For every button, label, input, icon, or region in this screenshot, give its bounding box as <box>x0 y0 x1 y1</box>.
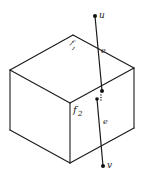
vertex-v <box>101 164 105 168</box>
vertex-u <box>93 14 97 18</box>
cube-edge-top-left <box>10 35 73 70</box>
cube <box>10 35 134 163</box>
label-u: u <box>99 10 105 20</box>
hidden-dots <box>100 94 101 100</box>
label-f1: f 1 <box>67 38 79 51</box>
edge-e-lower <box>97 99 103 166</box>
crossing-point-inner <box>95 97 99 101</box>
label-f2: f 2 <box>72 104 83 118</box>
cube-edge-front-left <box>10 70 70 103</box>
cube-edge-bottom-left <box>10 130 70 163</box>
label-e-upper: e <box>101 46 106 55</box>
label-v: v <box>107 160 112 170</box>
svg-text:2: 2 <box>77 110 83 118</box>
cube-diagram: u e e v f 1 f 2 <box>0 0 142 178</box>
label-e-lower: e <box>103 117 108 126</box>
crossing-point-top <box>100 89 104 93</box>
